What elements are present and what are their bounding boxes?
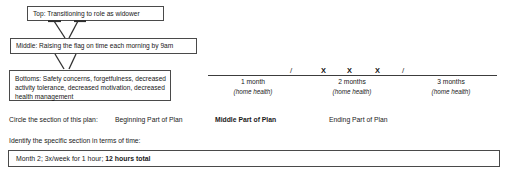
option-middle-part[interactable]: Middle Part of Plan bbox=[215, 114, 276, 125]
timeline-segment-3-sublabel: (home health) bbox=[408, 87, 494, 96]
timeline-axis-line bbox=[208, 75, 497, 76]
timeline-segment-1-sublabel: (home health) bbox=[212, 87, 294, 96]
worksheet-page: Top: Transitioning to role as widower Mi… bbox=[0, 0, 509, 176]
timeline-segment-2-label: 2 months bbox=[338, 78, 366, 85]
treatment-timeline: / X X X / 1 month (home health) 2 months… bbox=[206, 60, 498, 102]
option-ending-part[interactable]: Ending Part of Plan bbox=[329, 114, 388, 125]
goal-box-bottom-line-1: Bottoms: Safety concerns, forgetfulness,… bbox=[15, 74, 166, 83]
timeline-mark-slash-1: / bbox=[290, 67, 292, 74]
goal-box-middle: Middle: Raising the flag on time each mo… bbox=[10, 38, 197, 54]
goal-box-bottom: Bottoms: Safety concerns, forgetfulness,… bbox=[9, 70, 171, 101]
goal-box-top: Top: Transitioning to role as widower bbox=[27, 6, 164, 21]
circle-section-prompt: Circle the section of this plan: bbox=[9, 114, 98, 125]
identify-time-label: Identify the specific section in terms o… bbox=[9, 136, 140, 146]
circle-section-row: Circle the section of this plan: Beginni… bbox=[9, 114, 501, 125]
timeline-mark-cross-3: X bbox=[375, 67, 380, 74]
connector-top-to-middle-icon bbox=[44, 20, 88, 39]
timeline-segment-2-sublabel: (home health) bbox=[306, 87, 398, 96]
option-beginning-part[interactable]: Beginning Part of Plan bbox=[115, 114, 183, 125]
identify-time-answer-box[interactable]: Month 2; 3x/week for 1 hour; 12 hours to… bbox=[8, 150, 500, 167]
goal-box-middle-text: Middle: Raising the flag on time each mo… bbox=[16, 41, 173, 50]
answer-bold-text: 12 hours total bbox=[105, 154, 150, 164]
goal-box-bottom-line-3: health management bbox=[15, 92, 166, 101]
timeline-segment-1: 1 month (home health) bbox=[212, 77, 294, 96]
timeline-segment-3-label: 3 months bbox=[437, 78, 465, 85]
timeline-segment-2: 2 months (home health) bbox=[306, 77, 398, 96]
goal-box-top-text: Top: Transitioning to role as widower bbox=[33, 9, 140, 18]
timeline-mark-slash-2: / bbox=[402, 67, 404, 74]
timeline-segment-1-label: 1 month bbox=[241, 78, 265, 85]
timeline-mark-cross-1: X bbox=[321, 67, 326, 74]
timeline-segment-3: 3 months (home health) bbox=[408, 77, 494, 96]
answer-plain-text: Month 2; 3x/week for 1 hour; bbox=[16, 154, 103, 164]
goal-box-bottom-line-2: activity tolerance, decreased motivation… bbox=[15, 83, 166, 92]
connector-middle-to-bottom-icon bbox=[44, 52, 88, 70]
timeline-mark-cross-2: X bbox=[347, 67, 352, 74]
